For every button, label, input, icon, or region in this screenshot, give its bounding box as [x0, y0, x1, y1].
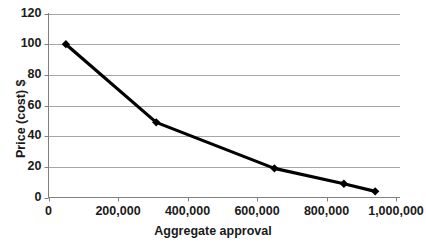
y-axis-title: Price (cost) $: [14, 79, 28, 158]
y-tick-label: 80: [28, 67, 42, 81]
y-tick-label: 0: [35, 190, 42, 204]
y-tick-label: 20: [28, 159, 42, 173]
data-point-marker: [340, 180, 348, 188]
x-tick-label: 1,000,000: [351, 204, 426, 218]
data-point-markers: [62, 40, 380, 196]
y-tick-label: 60: [28, 98, 42, 112]
gridlines-group: [49, 15, 401, 168]
x-axis-title: Aggregate approval: [0, 224, 426, 238]
data-point-marker: [270, 164, 278, 172]
y-tick-label: 40: [28, 128, 42, 142]
y-tick-label: 120: [21, 6, 42, 20]
tick-marks-group: [45, 15, 397, 202]
line-chart: 020406080100120 0200,000400,000600,00080…: [0, 0, 426, 244]
y-tick-label: 100: [21, 36, 42, 50]
data-series-line: [66, 44, 375, 191]
data-point-marker: [371, 187, 379, 195]
